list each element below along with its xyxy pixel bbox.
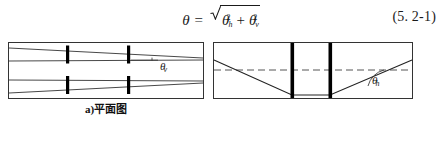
theta-v-angle-label: θv — [160, 60, 167, 74]
equation-expression: θ= θ2h+θ2v — [0, 4, 442, 38]
equation-relation: = — [190, 12, 208, 28]
elevation-view-caption: b）立面图 — [424, 100, 442, 116]
plan-view-caption: a)平面图 — [0, 100, 212, 116]
elevation-view-figure: θh b）立面图 — [212, 38, 422, 100]
square-root: θ2h+θ2v — [210, 4, 260, 38]
equation-row: θ= θ2h+θ2v (5. 2-1) — [0, 4, 442, 34]
theta-v-subscript: v — [255, 20, 259, 29]
figure-group: θv a)平面图 θh b）立面图 — [0, 38, 442, 138]
radical-vinculum — [220, 5, 260, 6]
theta-h-angle-label: θh — [372, 74, 379, 88]
plan-view-figure: θv a)平面图 — [0, 38, 212, 100]
figure-page: θ= θ2h+θ2v (5. 2-1) — [0, 0, 442, 142]
radical-tick-icon — [210, 5, 221, 20]
equation-operator: + — [232, 12, 248, 28]
equation-lhs-theta: θ — [182, 12, 189, 28]
radicand: θ2h+θ2v — [221, 5, 260, 38]
theta-v-label-sub: v — [163, 65, 167, 74]
theta-h-label-sub: h — [375, 79, 379, 88]
equation-number: (5. 2-1) — [392, 4, 436, 30]
